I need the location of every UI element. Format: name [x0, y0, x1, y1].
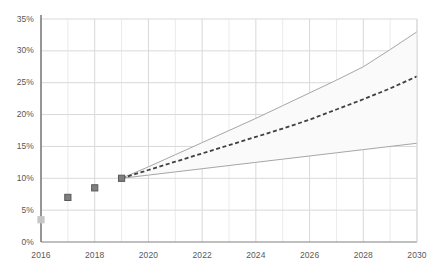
- y-axis-tick-label: 20%: [0, 109, 34, 119]
- x-axis-tick-label: 2028: [340, 250, 386, 260]
- chart-canvas: [0, 0, 432, 271]
- x-axis-tick-label: 2030: [394, 250, 432, 260]
- y-axis-tick-label: 10%: [0, 173, 34, 183]
- x-axis-tick-label: 2020: [125, 250, 171, 260]
- x-axis-tick-label: 2016: [18, 250, 64, 260]
- forecast-band: [122, 32, 417, 179]
- data-point-marker: [38, 217, 44, 223]
- data-point-marker: [92, 185, 98, 191]
- y-axis-tick-label: 30%: [0, 45, 34, 55]
- x-axis-tick-label: 2018: [72, 250, 118, 260]
- x-axis-tick-label: 2024: [233, 250, 279, 260]
- data-point-marker: [118, 175, 124, 181]
- x-axis-tick-label: 2026: [287, 250, 333, 260]
- forecast-fan-chart: 0%5%10%15%20%25%30%35% 20162018202020222…: [0, 0, 432, 271]
- y-axis-tick-label: 5%: [0, 205, 34, 215]
- x-axis-tick-label: 2022: [179, 250, 225, 260]
- y-axis-tick-label: 35%: [0, 14, 34, 24]
- y-axis-tick-label: 0%: [0, 237, 34, 247]
- y-axis-tick-label: 15%: [0, 141, 34, 151]
- y-axis-tick-label: 25%: [0, 77, 34, 87]
- data-point-marker: [65, 194, 71, 200]
